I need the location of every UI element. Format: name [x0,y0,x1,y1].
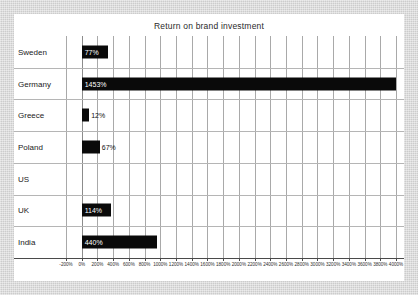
x-tick-label: 4000% [389,262,403,267]
x-tick [145,258,146,261]
x-axis: -200%0%200%400%600%800%1000%1200%1400%16… [14,258,404,278]
x-tick-label: 200% [92,262,104,267]
x-tick-label: 2000% [232,262,246,267]
x-tick-label: 1600% [200,262,214,267]
x-tick [176,258,177,261]
x-tick [82,258,83,261]
x-tick-label: 0% [78,262,85,267]
x-tick [349,258,350,261]
x-tick-label: 3000% [310,262,324,267]
x-tick [333,258,334,261]
x-tick [97,258,98,261]
data-label-germany: 1453% [85,80,107,87]
data-label-greece: 12% [91,112,105,119]
x-tick [380,258,381,261]
bar-poland[interactable] [82,141,100,154]
x-axis-line [14,258,404,259]
x-tick-label: 3200% [326,262,340,267]
x-tick-label: 3400% [342,262,356,267]
x-tick [317,258,318,261]
data-label-india: 440% [85,239,103,246]
x-tick-label: 2800% [295,262,309,267]
x-tick-label: 600% [123,262,135,267]
x-tick [365,258,366,261]
x-tick [302,258,303,261]
chart-panel: Return on brand investment SwedenGermany… [14,14,404,281]
x-tick-label: 1400% [185,262,199,267]
x-tick [396,258,397,261]
x-tick-label: 2200% [247,262,261,267]
x-tick-label: -200% [59,262,72,267]
data-label-uk: 114% [85,207,102,214]
x-tick-label: 1200% [169,262,183,267]
x-tick-label: 400% [107,262,119,267]
bar-germany[interactable] [82,77,396,90]
x-tick [223,258,224,261]
x-tick-label: 2400% [263,262,277,267]
x-tick-label: 800% [139,262,151,267]
x-tick-label: 1000% [153,262,167,267]
x-tick [239,258,240,261]
bars: 77%1453%12%67%114%440% [14,36,404,258]
x-tick-label: 1800% [216,262,230,267]
x-tick [207,258,208,261]
data-label-poland: 67% [102,144,116,151]
x-tick-label: 2600% [279,262,293,267]
x-tick [129,258,130,261]
data-label-sweden: 77% [85,48,99,55]
x-tick-label: 3800% [373,262,387,267]
x-tick [192,258,193,261]
bar-greece[interactable] [82,109,89,122]
x-tick-label: 3600% [357,262,371,267]
x-tick [270,258,271,261]
x-tick [255,258,256,261]
x-tick [113,258,114,261]
plot-area: SwedenGermanyGreecePolandUSUKIndia 77%14… [14,36,404,258]
chart-title: Return on brand investment [14,21,404,31]
x-tick [160,258,161,261]
x-tick [66,258,67,261]
x-tick [286,258,287,261]
